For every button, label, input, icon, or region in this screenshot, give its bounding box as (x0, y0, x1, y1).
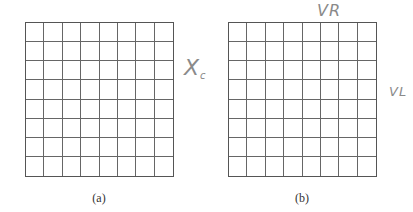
grid-cell (26, 100, 44, 119)
grid-cell (100, 80, 118, 99)
grid-cell (155, 80, 173, 99)
grid-cell (136, 42, 154, 61)
grid-cell (44, 80, 62, 99)
grid-cell (266, 61, 284, 80)
grid-cell (266, 157, 284, 176)
grid-cell (26, 80, 44, 99)
grid-cell (247, 138, 265, 157)
grid-cell (339, 23, 357, 42)
grid-cell (303, 61, 321, 80)
grid-cell (247, 100, 265, 119)
grid-cell (229, 42, 247, 61)
grid-cell (247, 157, 265, 176)
grid-cell (63, 80, 81, 99)
grid-cell (229, 23, 247, 42)
grid-cell (100, 100, 118, 119)
grid-cell (247, 42, 265, 61)
grid-cell (284, 157, 302, 176)
grid-cell (63, 138, 81, 157)
grid-cell (26, 42, 44, 61)
grid-cell (118, 100, 136, 119)
grid-cell (118, 42, 136, 61)
grid-cell (26, 61, 44, 80)
grid-cell (136, 61, 154, 80)
cut-off-fragment: ﾞ (252, 0, 258, 9)
grid-cell (100, 138, 118, 157)
annotation-x: X (184, 55, 200, 80)
grid-cell (229, 138, 247, 157)
grid-cell (155, 138, 173, 157)
grid-cell (155, 42, 173, 61)
grid-cell (284, 138, 302, 157)
grid-cell (26, 23, 44, 42)
grid-cell (44, 23, 62, 42)
grid-cell (44, 100, 62, 119)
grid-cell (155, 157, 173, 176)
grid-cell (81, 61, 99, 80)
grid-cell (358, 119, 376, 138)
grid-cell (26, 138, 44, 157)
grid-cell (26, 157, 44, 176)
grid-cell (229, 157, 247, 176)
handwritten-xc-annotation: Xc (184, 55, 207, 81)
cut-off-fragment: ~ (66, 0, 73, 6)
grid-cell (155, 100, 173, 119)
grid-cell (81, 138, 99, 157)
grid-cell (303, 80, 321, 99)
grid-cell (303, 119, 321, 138)
grid-cell (358, 80, 376, 99)
grid-cell (321, 157, 339, 176)
grid-cell (63, 42, 81, 61)
grid-cell (63, 157, 81, 176)
grid-cell (229, 80, 247, 99)
cut-off-fragment: ~ (222, 0, 229, 6)
grid-cell (266, 80, 284, 99)
grid-cell (321, 42, 339, 61)
grid-cell (284, 100, 302, 119)
grid-cell (358, 23, 376, 42)
handwritten-vl-annotation: VL (389, 84, 407, 99)
grid-cell (118, 157, 136, 176)
grid-cell (358, 100, 376, 119)
grid-cell (284, 61, 302, 80)
grid-cell (155, 23, 173, 42)
grid-cell (339, 157, 357, 176)
grid-cell (247, 23, 265, 42)
grid-cell (339, 80, 357, 99)
grid-cell (339, 138, 357, 157)
caption-b: (b) (295, 191, 309, 206)
grid-cell (266, 138, 284, 157)
grid-cell (339, 61, 357, 80)
grid-panel-a (25, 22, 174, 177)
annotation-subscript-c: c (200, 70, 207, 81)
grid-cell (81, 157, 99, 176)
grid-cell (229, 100, 247, 119)
grid-cell (26, 119, 44, 138)
grid-cell (247, 119, 265, 138)
grid-panel-b (228, 22, 377, 177)
grid-cell (63, 61, 81, 80)
grid-cell (81, 80, 99, 99)
grid-cell (266, 100, 284, 119)
grid-cell (136, 138, 154, 157)
grid-cell (358, 157, 376, 176)
grid-cell (284, 119, 302, 138)
grid-cell (44, 138, 62, 157)
grid-cell (136, 100, 154, 119)
grid-cell (284, 23, 302, 42)
grid-cell (358, 61, 376, 80)
grid-cell (81, 42, 99, 61)
grid-cell (321, 23, 339, 42)
grid-cell (155, 119, 173, 138)
grid-cell (339, 42, 357, 61)
grid-cell (339, 119, 357, 138)
grid-cell (118, 80, 136, 99)
grid-cell (118, 23, 136, 42)
grid-cell (63, 119, 81, 138)
grid-cell (266, 42, 284, 61)
grid-cell (44, 119, 62, 138)
grid-cell (100, 61, 118, 80)
grid-cell (229, 119, 247, 138)
grid-cell (321, 138, 339, 157)
grid-cell (284, 80, 302, 99)
